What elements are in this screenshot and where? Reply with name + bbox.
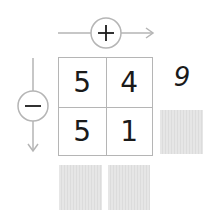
column-2-answer-box[interactable]: [108, 165, 150, 210]
minus-arrow: [18, 58, 48, 151]
grid-cell-r1c2: 4: [106, 58, 153, 107]
plus-arrow: [58, 18, 153, 48]
row-1-result: 9: [170, 62, 194, 92]
column-1-answer-box[interactable]: [59, 165, 102, 210]
grid-cell-r2c2: 1: [106, 107, 153, 156]
grid-cell-r2c1: 5: [59, 107, 106, 156]
number-grid: 5 4 5 1: [58, 57, 153, 156]
grid-cell-r1c1: 5: [59, 58, 106, 107]
row-2-answer-box[interactable]: [160, 110, 203, 154]
